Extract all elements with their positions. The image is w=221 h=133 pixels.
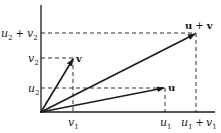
label-u1: u1: [160, 116, 172, 131]
label-v2: v2: [28, 52, 39, 67]
label-u2: u2: [28, 82, 40, 97]
vector-u: [41, 88, 164, 112]
label-u2-plus-v2: u2+v2: [1, 27, 38, 42]
vector-addition-diagram: v u u+v u2+v2 v2 u2 v1 u1 u1+v1: [0, 0, 221, 133]
label-u-plus-v: u+v: [185, 20, 214, 31]
label-v1: v1: [68, 116, 79, 131]
label-u: u: [168, 82, 175, 93]
label-u1-plus-v1: u1+v1: [181, 116, 217, 131]
label-v: v: [75, 53, 83, 64]
